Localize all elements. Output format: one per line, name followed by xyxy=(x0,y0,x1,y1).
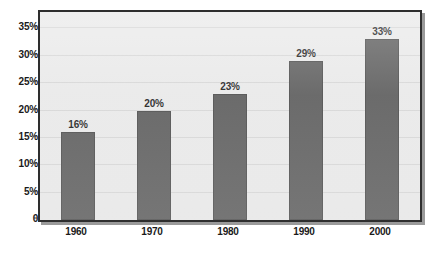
gridline xyxy=(40,27,420,28)
x-axis-tick-label: 2000 xyxy=(369,226,390,237)
bar-value-label: 33% xyxy=(372,26,391,37)
bar: 16% xyxy=(61,132,95,220)
y-axis-tick-label: 20% xyxy=(4,103,38,114)
plot-area: 16%20%23%29%33% xyxy=(40,12,420,220)
bar-chart: 05%10%15%20%25%30%35% 16%20%23%29%33% 19… xyxy=(0,0,437,253)
bar: 23% xyxy=(213,94,247,220)
y-axis-tick-mark xyxy=(34,53,37,54)
y-axis-tick-mark xyxy=(34,108,37,109)
bar: 33% xyxy=(365,39,399,220)
bar: 29% xyxy=(289,61,323,220)
x-axis-tick-label: 1960 xyxy=(65,226,86,237)
y-axis-tick-label: 30% xyxy=(4,48,38,59)
y-axis-tick-mark xyxy=(34,163,37,164)
x-axis: 19601970198019902000 xyxy=(38,226,422,246)
y-axis-tick-mark xyxy=(34,218,37,219)
gridline xyxy=(40,55,420,56)
y-axis-tick-label: 35% xyxy=(4,21,38,32)
y-axis-tick-label: 0 xyxy=(4,213,38,224)
y-axis-tick-mark xyxy=(34,26,37,27)
y-axis-tick-label: 15% xyxy=(4,130,38,141)
x-axis-tick-label: 1990 xyxy=(293,226,314,237)
x-axis-tick-label: 1980 xyxy=(217,226,238,237)
bar-value-label: 29% xyxy=(296,48,315,59)
y-axis-tick-label: 5% xyxy=(4,185,38,196)
y-axis-tick-mark xyxy=(34,190,37,191)
y-axis-tick-mark xyxy=(34,135,37,136)
y-axis-tick-label: 10% xyxy=(4,158,38,169)
bar-value-label: 16% xyxy=(68,119,87,130)
y-axis-tick-mark xyxy=(34,81,37,82)
x-axis-tick-label: 1970 xyxy=(141,226,162,237)
bar-value-label: 23% xyxy=(220,81,239,92)
bar: 20% xyxy=(137,111,171,220)
bar-value-label: 20% xyxy=(144,98,163,109)
y-axis-tick-label: 25% xyxy=(4,76,38,87)
y-axis: 05%10%15%20%25%30%35% xyxy=(0,10,38,222)
plot-frame: 16%20%23%29%33% xyxy=(38,10,422,222)
